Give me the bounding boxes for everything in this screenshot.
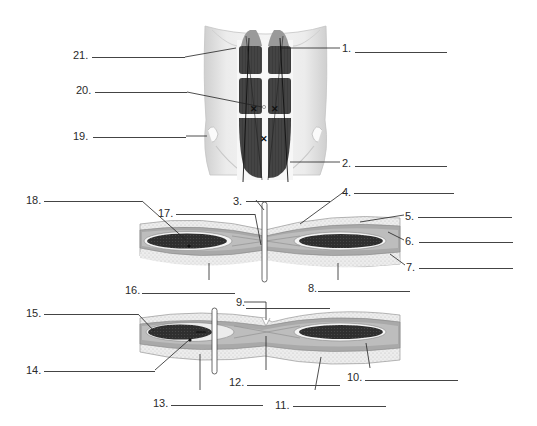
x-marker-icon: ✕ xyxy=(260,134,268,144)
label-number-1: 1. xyxy=(342,42,351,54)
label-number-21: 21. xyxy=(73,49,88,61)
answer-blank-15[interactable] xyxy=(44,314,138,315)
answer-blank-13[interactable] xyxy=(171,405,263,406)
answer-blank-8[interactable] xyxy=(318,291,410,292)
answer-blank-10[interactable] xyxy=(365,380,458,381)
label-number-20: 20. xyxy=(76,84,91,96)
label-number-19: 19. xyxy=(73,130,88,142)
label-number-18: 18. xyxy=(26,194,41,206)
x-marker-icon: ✕ xyxy=(271,104,279,114)
torso-illustration: ✕ ✕ ✕ xyxy=(204,26,327,182)
answer-blank-3[interactable] xyxy=(246,201,330,202)
answer-blank-6[interactable] xyxy=(419,242,513,243)
label-number-11: 11. xyxy=(275,399,289,411)
answer-blank-16[interactable] xyxy=(142,293,235,294)
label-number-5: 5. xyxy=(405,210,414,222)
label-number-2: 2. xyxy=(342,157,351,169)
answer-blank-11[interactable] xyxy=(293,406,386,407)
label-number-4: 4. xyxy=(342,186,351,198)
label-number-6: 6. xyxy=(405,235,414,247)
rectus-segment xyxy=(239,46,262,74)
answer-blank-14[interactable] xyxy=(44,371,155,372)
label-number-9: 9. xyxy=(236,296,245,308)
label-number-10: 10. xyxy=(347,371,362,383)
abdominal-wall-diagram: ✕ ✕ ✕ xyxy=(0,0,537,426)
answer-blank-17[interactable] xyxy=(176,214,255,215)
label-number-16: 16. xyxy=(125,284,140,296)
answer-blank-12[interactable] xyxy=(247,385,340,386)
cross-section-lower xyxy=(140,308,400,374)
label-number-14: 14. xyxy=(26,364,41,376)
answer-blank-4[interactable] xyxy=(354,193,454,194)
label-number-7: 7. xyxy=(406,261,415,273)
label-number-12: 12. xyxy=(229,376,244,388)
answer-blank-20[interactable] xyxy=(95,92,187,93)
label-number-17: 17. xyxy=(158,207,173,219)
label-number-15: 15. xyxy=(26,307,41,319)
answer-blank-7[interactable] xyxy=(419,268,513,269)
answer-blank-5[interactable] xyxy=(418,217,512,218)
answer-blank-18[interactable] xyxy=(44,201,142,202)
answer-blank-2[interactable] xyxy=(355,166,447,167)
answer-blank-1[interactable] xyxy=(355,52,447,53)
answer-blank-19[interactable] xyxy=(93,137,186,138)
answer-blank-21[interactable] xyxy=(92,57,185,58)
label-number-3: 3. xyxy=(233,195,242,207)
diagram-artwork: ✕ ✕ ✕ xyxy=(0,0,537,426)
answer-blank-9[interactable] xyxy=(246,308,330,309)
label-number-13: 13. xyxy=(153,397,168,409)
label-number-8: 8. xyxy=(308,282,317,294)
